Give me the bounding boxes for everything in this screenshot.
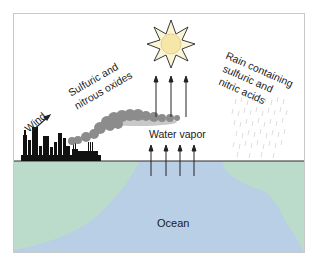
acid-rain-diagram: Wind Sulfuric and nitrous oxides Water v… [13, 13, 305, 253]
ground-region [14, 161, 304, 252]
rising-vapor-arrows [154, 76, 188, 117]
sun-icon [147, 20, 195, 68]
ocean-label: Ocean [157, 217, 189, 229]
factory-skyline-icon [21, 127, 101, 161]
rain-icon [232, 96, 287, 158]
water-vapor-label: Water vapor [149, 128, 206, 140]
